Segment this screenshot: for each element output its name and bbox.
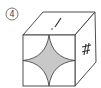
option-label: 4 — [6, 8, 18, 20]
cube-diagram: 4 — [0, 0, 101, 88]
top-face-dot — [51, 28, 53, 30]
label-number: 4 — [9, 10, 14, 19]
